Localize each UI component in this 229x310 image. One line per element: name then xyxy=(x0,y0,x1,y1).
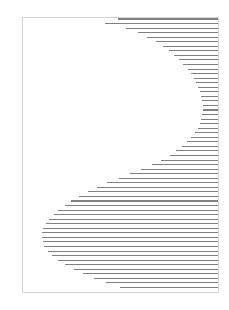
line-art-canvas xyxy=(0,0,229,310)
artboard xyxy=(0,0,229,310)
